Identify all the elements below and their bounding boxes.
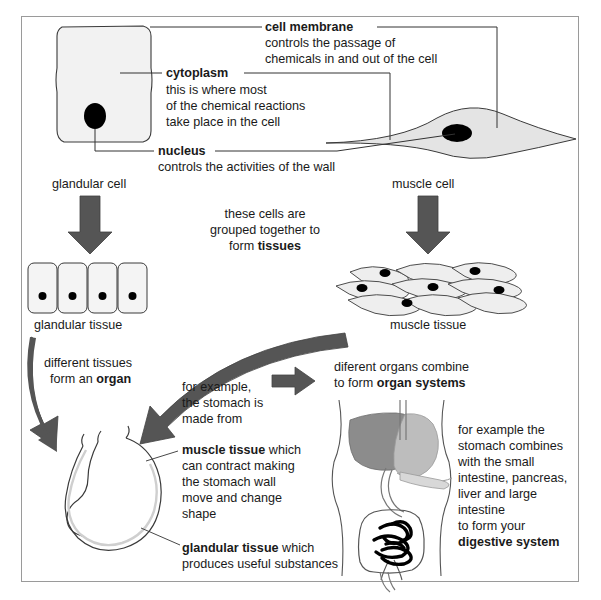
detail-muscle-tissue-line5: shape xyxy=(182,507,216,522)
note-organ-line1: different tissues xyxy=(44,356,132,371)
detail-muscle-tissue-line2: can contract making xyxy=(182,459,295,474)
note-digestive-line8: digestive system xyxy=(458,535,560,550)
note-organ-systems-line1: diferent organs combine xyxy=(334,360,469,375)
note-digestive-line4: intestine, pancreas, xyxy=(458,471,567,486)
label-cytoplasm-term: cytoplasm xyxy=(166,66,228,81)
note-tissues-line1: these cells are xyxy=(190,207,340,222)
note-organ-systems-line2-bold: organ systems xyxy=(377,376,466,390)
label-nucleus-line1: controls the activities of the wall xyxy=(158,160,335,175)
note-organ-line2-plain: form an xyxy=(50,372,96,386)
note-tissues-line3-bold: tissues xyxy=(258,239,301,253)
note-digestive-line2: stomach combines xyxy=(458,439,563,454)
detail-glandular-tissue-rest: which xyxy=(279,541,315,555)
note-digestive-line7: to form your xyxy=(458,519,525,534)
label-nucleus-term: nucleus xyxy=(158,144,206,159)
caption-glandular-tissue: glandular tissue xyxy=(34,318,122,333)
note-digestive-line6: intestine xyxy=(458,503,505,518)
detail-glandular-tissue-line1: glandular tissue which xyxy=(182,541,314,556)
note-organ-systems-line2: to form organ systems xyxy=(334,376,466,391)
note-digestive-line1: for example the xyxy=(458,423,545,438)
caption-muscle-cell: muscle cell xyxy=(392,177,454,192)
note-digestive-line5: liver and large xyxy=(458,487,537,502)
note-organ-systems-line2-plain: to form xyxy=(334,376,377,390)
note-stomach-example-line1: for example, xyxy=(182,380,251,395)
note-tissues-line3-plain: form xyxy=(229,239,258,253)
note-tissues-line3: form tissues xyxy=(190,239,340,254)
detail-muscle-tissue-line1: muscle tissue which xyxy=(182,443,301,458)
detail-glandular-tissue-bold: glandular tissue xyxy=(182,541,279,555)
detail-muscle-tissue-bold: muscle tissue xyxy=(182,443,265,457)
label-cell-membrane-line2: chemicals in and out of the cell xyxy=(265,52,437,67)
note-stomach-example-line2: the stomach is xyxy=(182,396,263,411)
detail-muscle-tissue-line3: the stomach wall xyxy=(182,475,276,490)
caption-muscle-tissue: muscle tissue xyxy=(390,318,466,333)
label-cytoplasm-line2: of the chemical reactions xyxy=(166,99,305,114)
note-digestive-line3: with the small xyxy=(458,455,534,470)
detail-muscle-tissue-line4: move and change xyxy=(182,491,282,506)
note-organ-line2: form an organ xyxy=(50,372,131,387)
note-stomach-example-line3: made from xyxy=(182,412,242,427)
label-cell-membrane-term: cell membrane xyxy=(265,20,353,35)
note-tissues-line2: grouped together to xyxy=(190,223,340,238)
diagram-root: cell membrane controls the passage of ch… xyxy=(0,0,601,600)
caption-glandular-cell: glandular cell xyxy=(52,177,126,192)
note-organ-line2-bold: organ xyxy=(96,372,131,386)
detail-muscle-tissue-rest: which xyxy=(265,443,301,457)
detail-glandular-tissue-line2: produces useful substances xyxy=(182,557,338,572)
label-cytoplasm-line1: this is where most xyxy=(166,83,267,98)
label-cytoplasm-line3: take place in the cell xyxy=(166,115,280,130)
label-cell-membrane-line1: controls the passage of xyxy=(265,36,395,51)
